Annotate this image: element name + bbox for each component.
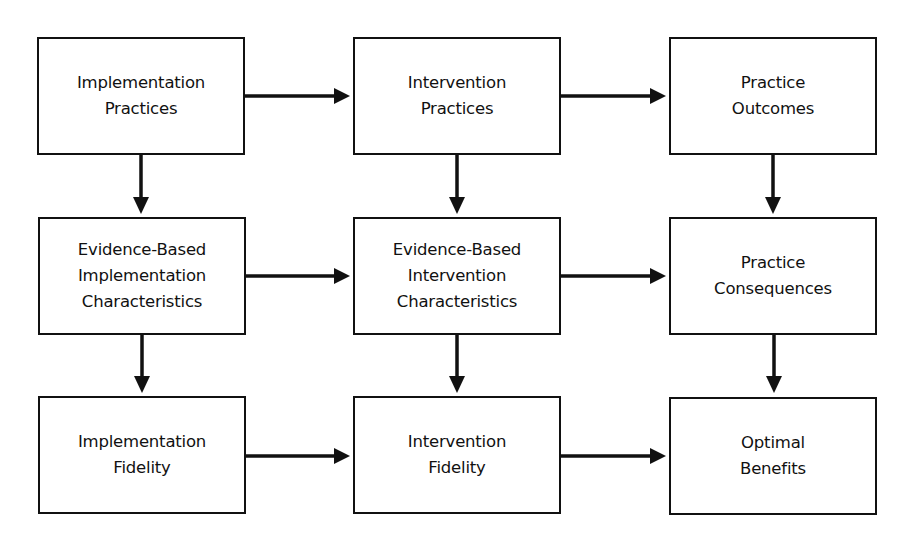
node-optimal-benefits: Optimal Benefits [669,397,877,515]
node-label-line: Characteristics [397,289,517,315]
node-label-line: Intervention [408,263,506,289]
node-label-line: Intervention [408,70,506,96]
node-evidence-based-intervention-characteristics: Evidence-Based Intervention Characterist… [353,217,561,335]
node-label-line: Evidence-Based [393,237,521,263]
node-label-line: Evidence-Based [78,237,206,263]
node-label-line: Intervention [408,429,506,455]
node-intervention-fidelity: Intervention Fidelity [353,396,561,514]
node-label-line: Fidelity [428,455,485,481]
node-label-line: Characteristics [82,289,202,315]
node-label-line: Practices [421,96,494,122]
node-label-line: Outcomes [732,96,814,122]
node-implementation-fidelity: Implementation Fidelity [38,396,246,514]
node-label-line: Optimal [741,430,805,456]
node-implementation-practices: Implementation Practices [37,37,245,155]
node-practice-consequences: Practice Consequences [669,217,877,335]
node-label-line: Benefits [740,456,806,482]
node-label-line: Implementation [78,263,206,289]
node-label-line: Implementation [77,70,205,96]
node-evidence-based-implementation-characteristics: Evidence-Based Implementation Characteri… [38,217,246,335]
node-intervention-practices: Intervention Practices [353,37,561,155]
node-label-line: Implementation [78,429,206,455]
node-label-line: Practice [741,250,805,276]
node-label-line: Fidelity [113,455,170,481]
node-practice-outcomes: Practice Outcomes [669,37,877,155]
node-label-line: Practices [105,96,178,122]
node-label-line: Consequences [714,276,832,302]
node-label-line: Practice [741,70,805,96]
